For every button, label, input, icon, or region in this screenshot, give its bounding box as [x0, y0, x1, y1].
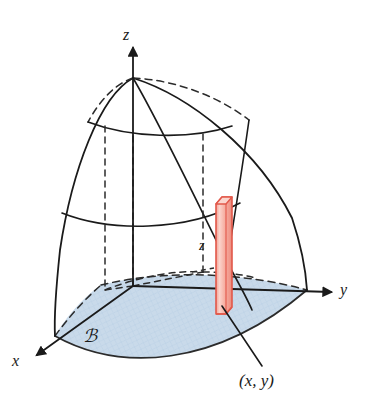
column-height-label: z	[199, 238, 204, 254]
column-body	[216, 197, 232, 314]
dome-back-edges-hidden	[88, 78, 249, 122]
red-column	[216, 197, 232, 314]
point-xy-label: (x, y)	[239, 371, 274, 391]
latitude-curve-lower	[62, 203, 240, 226]
z-axis-label: z	[123, 26, 129, 44]
figure-canvas	[0, 0, 367, 409]
x-axis-label: x	[12, 352, 19, 370]
math-figure-solid-region: z y x z ℬ (x, y)	[0, 0, 367, 409]
dome-latitude-curves	[62, 122, 240, 226]
y-axis-label: y	[340, 281, 347, 299]
hidden-vertical-lines	[105, 126, 203, 290]
base-region-label: ℬ	[83, 325, 98, 346]
